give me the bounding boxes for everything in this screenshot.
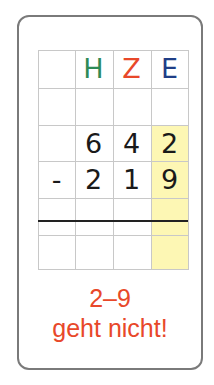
header-hundreds: H xyxy=(75,50,112,87)
header-tens: Z xyxy=(113,50,150,87)
message-line-1: 2–9 xyxy=(17,284,203,312)
minuend-hundreds: 6 xyxy=(75,125,112,162)
grid-line xyxy=(38,50,39,270)
place-value-grid: H Z E 6 4 2 - 2 1 9 xyxy=(38,50,188,270)
result-line xyxy=(38,220,188,222)
minuend-ones: 2 xyxy=(151,125,188,162)
subtrahend-tens: 1 xyxy=(113,161,150,198)
grid-line xyxy=(38,88,188,89)
subtrahend-ones: 9 xyxy=(151,161,188,198)
minus-sign: - xyxy=(38,161,75,198)
minuend-tens: 4 xyxy=(113,125,150,162)
subtrahend-hundreds: 2 xyxy=(75,161,112,198)
grid-line xyxy=(38,269,188,270)
message-line-2: geht nicht! xyxy=(17,314,203,342)
header-ones: E xyxy=(151,50,188,87)
grid-line xyxy=(38,198,188,199)
grid-line xyxy=(38,235,188,236)
grid-line xyxy=(188,50,189,270)
